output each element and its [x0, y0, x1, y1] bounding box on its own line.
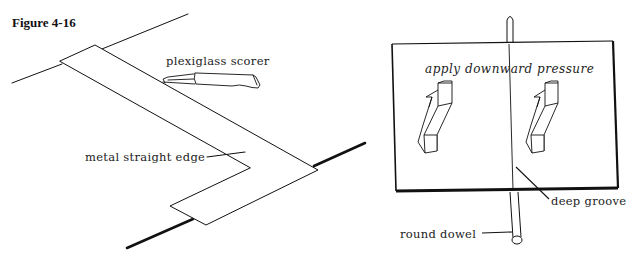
- round-dowel-label: round dowel: [400, 227, 476, 241]
- right-hand-grip-icon: [526, 81, 558, 153]
- left-hand-grip-icon: [418, 81, 452, 153]
- plexiglass-scorer-icon: [163, 73, 260, 88]
- plexiglass-scorer-label: plexiglass scorer: [166, 54, 270, 68]
- round-dowel-bottom: [510, 192, 521, 238]
- thin-sheet-edge-line-upper: [102, 14, 188, 49]
- round-dowel-top: [507, 17, 513, 44]
- diagram-drawing: [0, 0, 632, 259]
- metal-straight-edge-label: metal straight edge: [85, 150, 205, 164]
- round-dowel-end: [512, 236, 522, 244]
- bold-sheet-edge-line-right: [314, 143, 365, 166]
- apply-downward-pressure-label: apply downward pressure: [425, 62, 594, 76]
- bold-sheet-edge-line: [127, 219, 193, 248]
- deep-groove-label: deep groove: [551, 194, 626, 208]
- thin-sheet-edge-line: [12, 64, 62, 83]
- deep-groove-leader: [516, 167, 549, 199]
- plexiglass-sheet-board: [392, 41, 613, 44]
- metal-straight-edge-shape: [60, 45, 318, 225]
- left-panel-drawing: [12, 14, 365, 248]
- figure-canvas: Figure 4-16: [0, 0, 632, 259]
- round-dowel-leader: [482, 232, 512, 233]
- right-panel-drawing: [392, 17, 618, 245]
